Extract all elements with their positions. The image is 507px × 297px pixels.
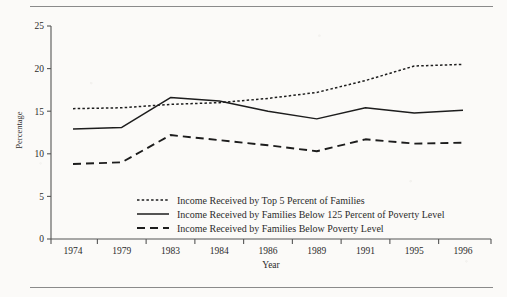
x-tick-label: 1989 (307, 246, 326, 256)
x-tick-label: 1995 (405, 246, 424, 256)
x-tick-label: 1986 (259, 246, 278, 256)
line-chart: 0510152025 19741979198319841986198919911… (0, 0, 507, 297)
chart-svg: 0510152025 19741979198319841986198919911… (0, 0, 507, 297)
series-line-2 (73, 98, 463, 130)
chart-legend: Income Received by Top 5 Percent of Fami… (137, 195, 445, 234)
y-tick-label: 0 (39, 234, 44, 244)
x-tick-label: 1996 (454, 246, 473, 256)
y-axis-ticks: 0510152025 (35, 21, 52, 244)
x-axis-ticks: 197419791983198419861989199119951996 (51, 239, 491, 256)
y-axis-title: Percentage (14, 111, 24, 149)
y-tick-label: 20 (35, 64, 45, 74)
y-tick-label: 15 (35, 107, 45, 117)
x-tick-label: 1983 (161, 246, 180, 256)
series-line-3 (73, 135, 463, 164)
x-axis-title: Year (262, 260, 280, 270)
x-tick-label: 1974 (64, 246, 83, 256)
legend-label-1: Income Received by Top 5 Percent of Fami… (177, 195, 365, 206)
y-tick-label: 25 (35, 21, 45, 31)
series-line-1 (73, 64, 463, 108)
legend-label-3: Income Received by Families Below Povert… (177, 223, 384, 234)
x-tick-label: 1984 (210, 246, 229, 256)
x-tick-label: 1979 (112, 246, 131, 256)
x-tick-label: 1991 (356, 246, 375, 256)
y-tick-label: 10 (35, 149, 45, 159)
legend-label-2: Income Received by Families Below 125 Pe… (177, 209, 445, 220)
data-series-group (73, 64, 463, 164)
y-tick-label: 5 (39, 192, 44, 202)
